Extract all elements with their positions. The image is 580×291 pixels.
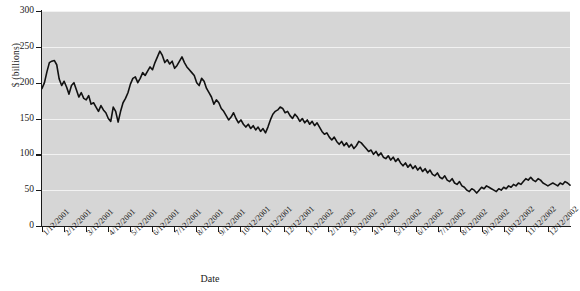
series-line-value (42, 51, 570, 193)
y-axis-tick-label: 300 (0, 5, 34, 15)
data-line-chart (42, 11, 570, 226)
y-axis-tick (36, 119, 41, 120)
y-axis-line (41, 10, 42, 227)
y-axis-tick-label: 200 (0, 77, 34, 87)
y-axis-tick (36, 83, 41, 84)
y-axis-tick (36, 226, 41, 227)
y-axis-tick (36, 47, 41, 48)
y-axis-tick-label: 50 (0, 184, 34, 194)
y-axis-tick-label: 0 (0, 220, 34, 230)
y-axis-tick (36, 154, 41, 155)
y-axis-tick (36, 190, 41, 191)
y-axis-title: $ (billions) (11, 5, 21, 125)
y-axis-tick-label: 100 (0, 148, 34, 158)
y-axis-tick-label: 150 (0, 113, 34, 123)
chart-container: $ (billions) 050100150200250300 1/12/200… (0, 0, 580, 291)
y-axis-tick (36, 11, 41, 12)
y-axis-tick-label: 250 (0, 41, 34, 51)
x-axis-title: Date (0, 273, 420, 284)
plot-area (42, 11, 570, 226)
